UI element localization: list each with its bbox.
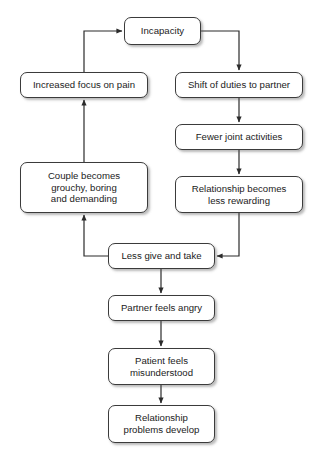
node-partner-feels-angry[interactable]: Partner feels angry (108, 295, 215, 321)
edge-relationship-to-less-give (217, 213, 239, 256)
node-less-give-and-take-label: Less give and take (117, 250, 205, 262)
node-couple-becomes-grouchy[interactable]: Couple becomes grouchy, boring and deman… (20, 162, 148, 213)
node-shift-of-duties-to-partner-label: Shift of duties to partner (184, 79, 294, 91)
edge-layer (0, 0, 317, 458)
edge-increased-focus-to-incapacity (84, 31, 122, 72)
node-increased-focus-on-pain-label: Increased focus on pain (29, 79, 139, 91)
node-incapacity[interactable]: Incapacity (124, 17, 201, 45)
node-increased-focus-on-pain[interactable]: Increased focus on pain (20, 72, 148, 98)
node-shift-of-duties-to-partner[interactable]: Shift of duties to partner (175, 72, 303, 98)
node-relationship-becomes-less-rewarding[interactable]: Relationship becomes less rewarding (175, 176, 303, 213)
node-relationship-problems-develop[interactable]: Relationship problems develop (108, 405, 215, 443)
node-relationship-problems-develop-label: Relationship problems develop (120, 412, 204, 435)
node-relationship-becomes-less-rewarding-label: Relationship becomes less rewarding (188, 183, 291, 206)
node-couple-becomes-grouchy-label: Couple becomes grouchy, boring and deman… (44, 170, 124, 205)
edge-less-give-to-couple (84, 215, 108, 256)
node-fewer-joint-activities[interactable]: Fewer joint activities (175, 124, 303, 150)
node-less-give-and-take[interactable]: Less give and take (108, 243, 215, 269)
node-patient-feels-misunderstood-label: Patient feels misunderstood (126, 355, 197, 378)
edge-incapacity-to-shift (201, 31, 239, 70)
flowchart-diagram: Incapacity Increased focus on pain Shift… (0, 0, 317, 458)
node-incapacity-label: Incapacity (137, 25, 188, 37)
node-fewer-joint-activities-label: Fewer joint activities (192, 131, 287, 143)
node-patient-feels-misunderstood[interactable]: Patient feels misunderstood (108, 348, 215, 385)
node-partner-feels-angry-label: Partner feels angry (117, 302, 206, 314)
